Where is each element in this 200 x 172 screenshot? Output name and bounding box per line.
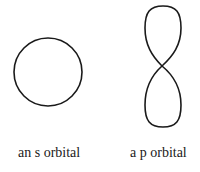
p-orbital-lower-lobe bbox=[145, 66, 181, 127]
s-orbital-shape bbox=[14, 38, 82, 106]
p-orbital-upper-lobe bbox=[145, 6, 181, 66]
p-orbital-label: a p orbital bbox=[130, 145, 187, 161]
s-orbital-label: an s orbital bbox=[18, 145, 80, 161]
